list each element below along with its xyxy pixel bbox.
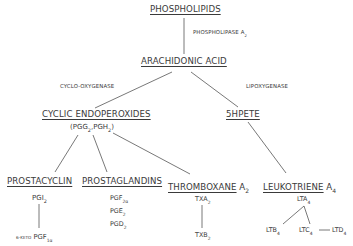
node-6-keto-pgf1a: 6-KETO PGF1α bbox=[16, 234, 53, 241]
node-pgd2: PGD2 bbox=[110, 221, 127, 228]
connector-lines bbox=[0, 0, 353, 246]
node-prostacyclin: PROSTACYCLIN bbox=[7, 177, 72, 186]
eicosanoid-pathway-diagram: PHOSPHOLIPIDS PHOSPHOLIPASE A2 ARACHIDON… bbox=[0, 0, 353, 246]
node-pgi2: PGI2 bbox=[32, 195, 47, 202]
node-ltc4: LTC4 bbox=[299, 227, 313, 234]
node-arachidonic-acid: ARACHIDONIC ACID bbox=[141, 57, 227, 66]
enzyme-phospholipase-a2: PHOSPHOLIPASE A2 bbox=[193, 30, 247, 36]
node-ltd4: LTD4 bbox=[332, 227, 346, 234]
node-ltb4: LTB4 bbox=[266, 227, 280, 234]
node-prostaglandins: PROSTAGLANDINS bbox=[82, 177, 162, 186]
node-phospholipids: PHOSPHOLIPIDS bbox=[150, 5, 221, 14]
node-5hpete: 5HPETE bbox=[226, 110, 260, 119]
node-cyclic-endoperoxides: CYCLIC ENDOPEROXIDES bbox=[42, 110, 151, 119]
node-txb2: TXB2 bbox=[195, 232, 211, 239]
node-pgf2a: PGF2α bbox=[110, 195, 128, 202]
node-pge2: PGE2 bbox=[110, 208, 126, 215]
node-thromboxane-a2: THROMBOXANE A2 bbox=[168, 177, 249, 193]
node-lta4: LTA4 bbox=[297, 196, 310, 203]
enzyme-lipoxygenase: LIPOXYGENASE bbox=[246, 84, 288, 89]
node-leukotriene-a4: LEUKOTRIENE A4 bbox=[263, 177, 336, 193]
node-endoperoxides-detail: (PGG2,PGH2) bbox=[70, 124, 114, 131]
node-txa2: TXA2 bbox=[195, 196, 211, 203]
enzyme-cyclooxygenase: CYCLO-OXYGENASE bbox=[60, 84, 114, 89]
